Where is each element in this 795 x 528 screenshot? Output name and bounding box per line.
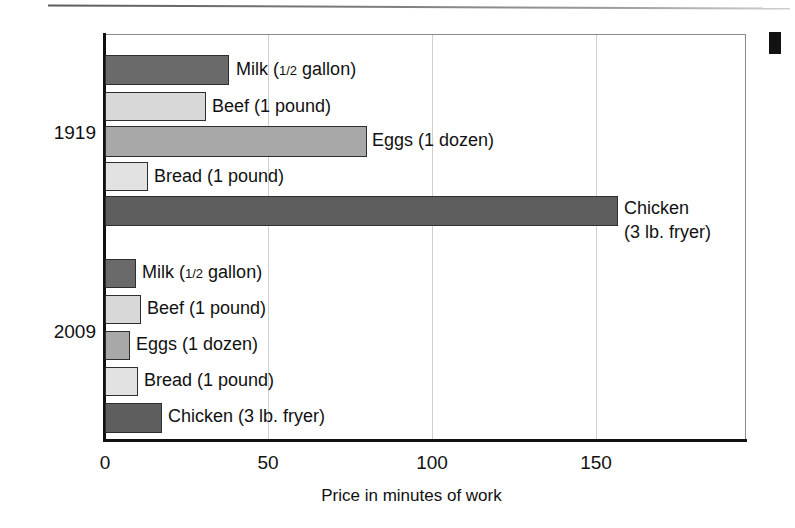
bar-label-1919-milk: Milk (1/2 gallon): [236, 59, 356, 81]
bar-label-2009-chicken: Chicken (3 lb. fryer): [168, 406, 325, 427]
label-text-milk-1919-post: gallon): [297, 59, 356, 79]
xtick-100: 100: [416, 452, 448, 474]
bar-2009-chicken[interactable]: [105, 403, 162, 433]
chart-page: { "chart_data": { "type": "bar", "orient…: [0, 0, 795, 528]
label-text-milk-1919-den: 2: [290, 63, 297, 78]
gridline-100: [432, 35, 433, 440]
xtick-150: 150: [580, 452, 612, 474]
label-text-milk-2009-post: gallon): [203, 262, 262, 282]
bar-label-1919-eggs: Eggs (1 dozen): [372, 130, 494, 151]
bar-2009-milk[interactable]: [105, 259, 136, 288]
bar-1919-eggs[interactable]: [105, 126, 367, 157]
bar-1919-milk[interactable]: [105, 55, 229, 85]
bar-2009-beef[interactable]: [105, 295, 141, 324]
x-axis-title-text: Price in minutes of work: [293, 486, 501, 505]
group-label-1919: 1919: [26, 122, 96, 144]
bar-label-2009-milk: Milk (1/2 gallon): [142, 262, 262, 284]
bar-label-2009-bread: Bread (1 pound): [144, 370, 274, 391]
bar-label-1919-chicken-line2: (3 lb. fryer): [624, 222, 711, 243]
label-text-milk-2009-den: 2: [196, 266, 203, 281]
bar-label-1919-bread: Bread (1 pound): [154, 166, 284, 187]
gridline-150: [596, 35, 597, 440]
bar-1919-beef[interactable]: [105, 92, 206, 121]
bar-2009-eggs[interactable]: [105, 331, 130, 360]
xtick-50: 50: [257, 452, 278, 474]
x-axis-line: [103, 439, 747, 442]
x-axis-title: Price in minutes of work: [0, 486, 795, 506]
group-label-2009: 2009: [26, 321, 96, 343]
bar-2009-bread[interactable]: [105, 367, 138, 396]
bar-label-2009-eggs: Eggs (1 dozen): [136, 334, 258, 355]
label-text-milk-2009-pre: Milk (: [142, 262, 185, 282]
bar-label-1919-chicken-line1: Chicken: [624, 198, 689, 219]
page-top-rule: [48, 4, 790, 9]
bar-label-1919-beef: Beef (1 pound): [212, 96, 331, 117]
bar-1919-chicken[interactable]: [105, 196, 618, 226]
bar-1919-bread[interactable]: [105, 162, 148, 191]
label-text-milk-1919-pre: Milk (: [236, 59, 279, 79]
page-edge-marker: [769, 32, 781, 54]
bar-label-2009-beef: Beef (1 pound): [147, 298, 266, 319]
xtick-0: 0: [100, 452, 111, 474]
